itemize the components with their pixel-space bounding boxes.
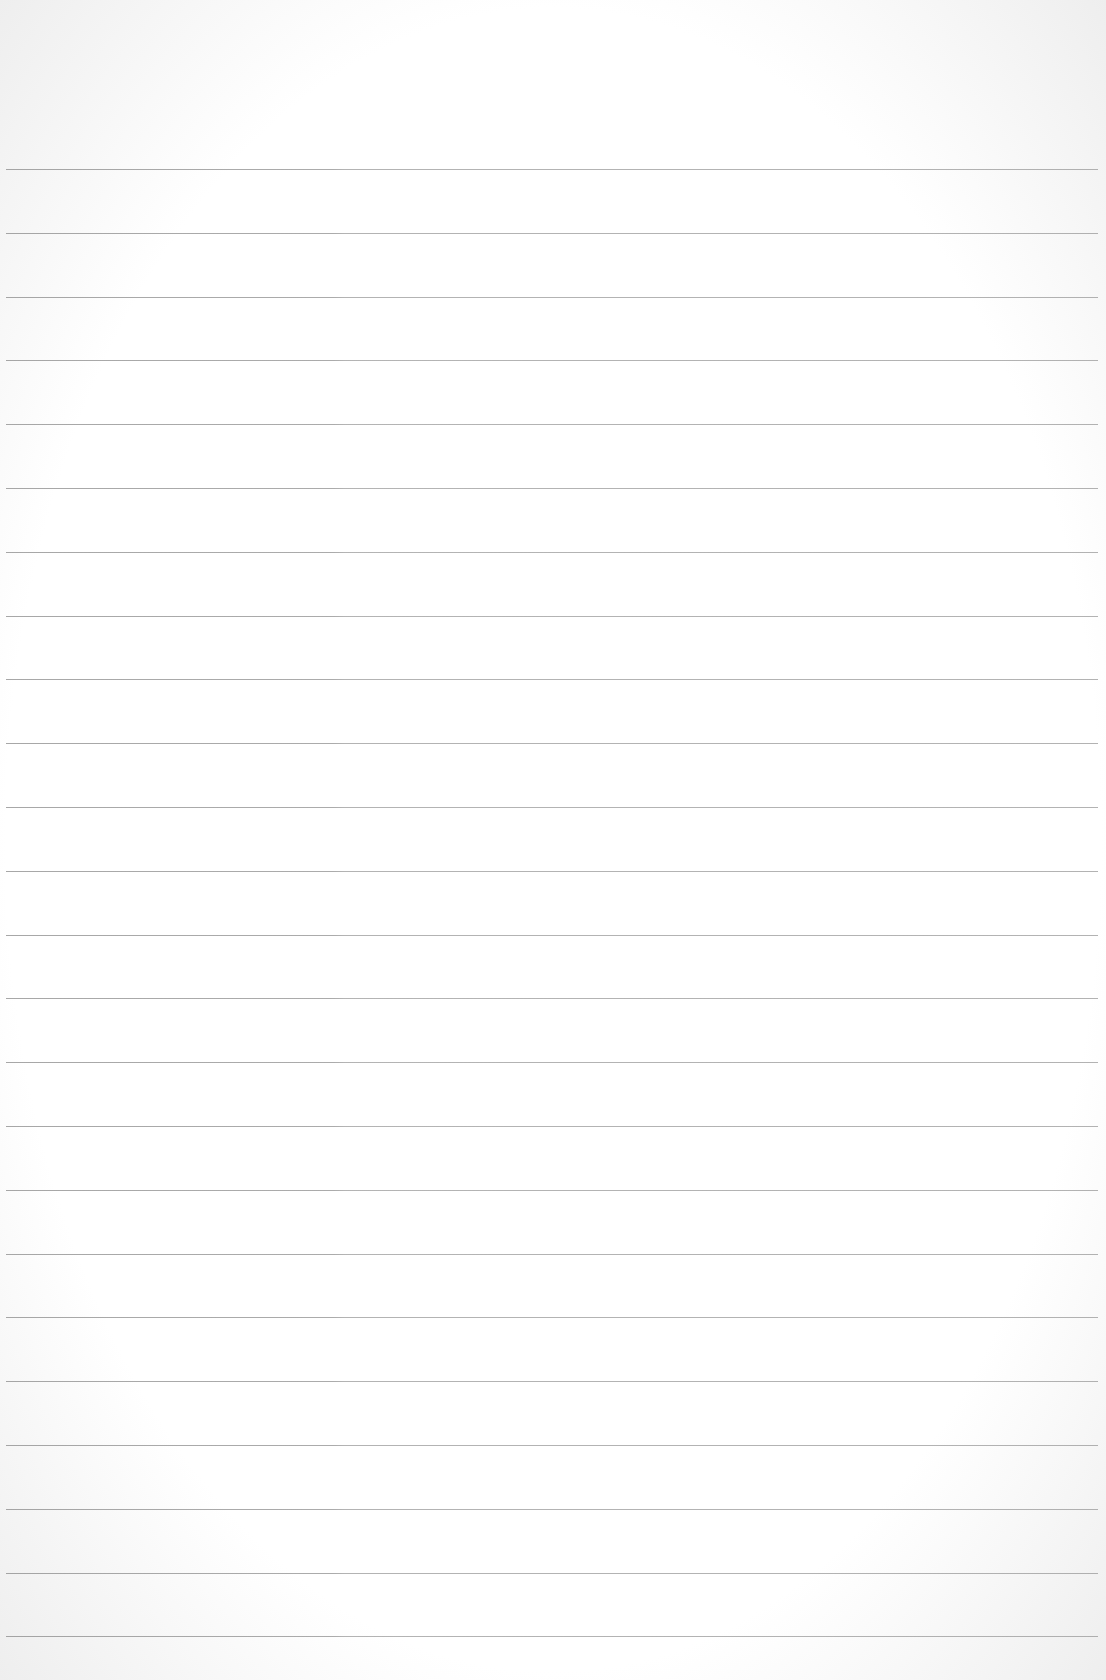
ruled-line: [6, 998, 1098, 999]
ruled-line: [6, 1190, 1098, 1191]
ruled-line: [6, 807, 1098, 808]
ruled-line: [6, 424, 1098, 425]
ruled-line: [6, 488, 1098, 489]
ruled-line: [6, 233, 1098, 234]
ruled-line: [6, 1573, 1098, 1574]
ruled-line: [6, 360, 1098, 361]
ruled-line: [6, 935, 1098, 936]
ruled-line: [6, 871, 1098, 872]
ruled-line: [6, 169, 1098, 170]
ruled-line: [6, 1509, 1098, 1510]
ruled-line: [6, 679, 1098, 680]
ruled-line: [6, 297, 1098, 298]
ruled-line: [6, 616, 1098, 617]
ruled-line: [6, 1126, 1098, 1127]
ruled-line: [6, 1445, 1098, 1446]
ruled-line: [6, 1254, 1098, 1255]
ruled-line: [6, 552, 1098, 553]
ruled-line: [6, 1636, 1098, 1637]
ruled-line: [6, 743, 1098, 744]
ruled-line: [6, 1062, 1098, 1063]
ruled-line: [6, 1381, 1098, 1382]
ruled-line: [6, 1317, 1098, 1318]
lined-paper-sheet: [0, 0, 1106, 1680]
